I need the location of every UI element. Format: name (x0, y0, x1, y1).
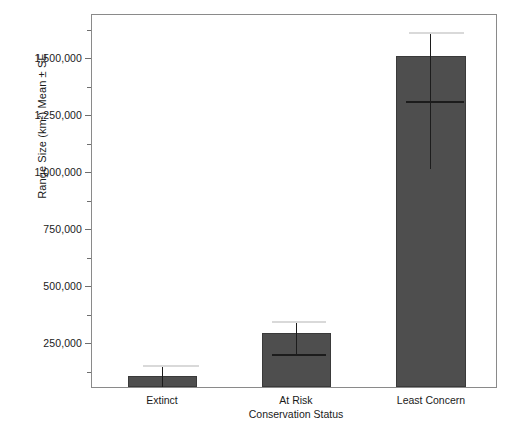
y-tick-major-1500000 (85, 58, 91, 59)
y-tick-label-500000: 500,000 (43, 280, 82, 292)
y-axis-title: Range Size (km²) Mean ± SE (36, 6, 48, 246)
y-tick-minor-375000 (87, 315, 91, 316)
x-tick-label-at-risk: At Risk (246, 394, 346, 406)
y-tick-minor-1375000 (87, 87, 91, 88)
y-tick-minor-1125000 (87, 144, 91, 145)
error-stem-extinct (162, 365, 163, 387)
y-tick-major-250000 (85, 343, 91, 344)
y-tick-minor-1625000 (87, 30, 91, 31)
error-cap-lower-at-risk (272, 354, 326, 356)
y-tick-major-1000000 (85, 172, 91, 173)
error-cap-upper-at-risk (272, 321, 326, 323)
error-cap-lower-least-concern (406, 101, 464, 103)
bar-least-concern (396, 56, 466, 387)
y-tick-label-1250000: 1,250,000 (34, 109, 82, 121)
error-cap-upper-least-concern (409, 32, 464, 34)
x-tick-label-least-concern: Least Concern (381, 394, 481, 406)
y-tick-minor-625000 (87, 258, 91, 259)
x-axis-title: Conservation Status (196, 408, 396, 420)
y-tick-major-750000 (85, 229, 91, 230)
y-tick-major-500000 (85, 286, 91, 287)
bar-chart-figure: Range Size (km²) Mean ± SE 1,500,000 1,2… (0, 0, 510, 431)
y-tick-label-1500000: 1,500,000 (34, 52, 82, 64)
y-tick-minor-125000 (87, 372, 91, 373)
y-tick-label-250000: 250,000 (43, 337, 82, 349)
y-tick-minor-875000 (87, 201, 91, 202)
error-cap-upper-extinct (143, 365, 199, 367)
y-tick-label-1000000: 1,000,000 (34, 166, 82, 178)
y-tick-major-1250000 (85, 115, 91, 116)
y-tick-label-750000: 750,000 (43, 223, 82, 235)
x-tick-label-extinct: Extinct (112, 394, 212, 406)
error-stem-at-risk (296, 321, 297, 355)
